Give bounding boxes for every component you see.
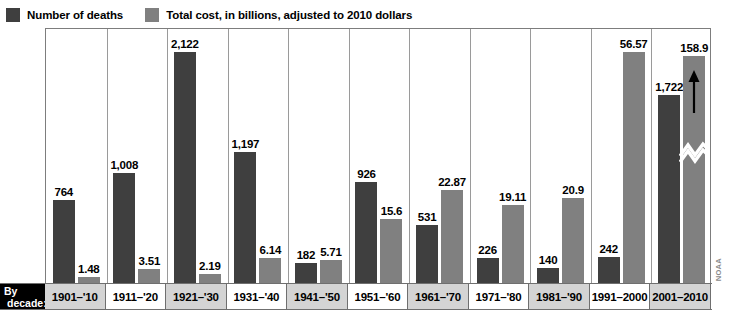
decade-column: 1825.71 xyxy=(288,29,349,283)
bar-deaths: 1,197 xyxy=(234,152,256,283)
axis-decade-cell: 1991–2000 xyxy=(590,284,651,309)
bar-deaths: 2,122 xyxy=(174,52,196,283)
axis-title-line2: decade: xyxy=(4,298,42,310)
legend-label-deaths: Number of deaths xyxy=(27,9,123,21)
axis-title-line1: By xyxy=(4,286,42,298)
bar-value-label-deaths: 2,122 xyxy=(171,38,199,50)
bar-value-label-deaths: 764 xyxy=(54,186,73,198)
bar-deaths: 182 xyxy=(295,263,317,283)
axis-decade-cell: 1971–'80 xyxy=(469,284,530,309)
axis-title: By decade: xyxy=(0,284,45,309)
axis-decade-cell: 1941–'50 xyxy=(287,284,348,309)
bar-deaths: 140 xyxy=(537,268,559,283)
legend-label-cost: Total cost, in billions, adjusted to 201… xyxy=(166,9,412,21)
source-credit: NOAA xyxy=(714,258,723,281)
bar-value-label-cost: 2.19 xyxy=(199,260,221,272)
plot-area: 7641.481,0083.512,1222.191,1976.141825.7… xyxy=(45,28,711,283)
decade-column: 7641.48 xyxy=(46,29,107,283)
bar-value-label-deaths: 1,008 xyxy=(110,159,138,171)
chart-legend: Number of deaths Total cost, in billions… xyxy=(6,6,412,24)
bar-cost: 2.19 xyxy=(199,274,221,283)
axis-decade-cell: 1931–'40 xyxy=(227,284,288,309)
bar-chart-hurricane-deaths-and-cost: Number of deaths Total cost, in billions… xyxy=(0,0,729,316)
bar-value-label-cost: 22.87 xyxy=(438,176,466,188)
bar-deaths: 764 xyxy=(53,200,75,283)
bar-value-label-deaths: 242 xyxy=(599,243,618,255)
up-arrow-icon xyxy=(686,70,702,118)
legend-entry-deaths: Number of deaths xyxy=(6,8,123,22)
bar-cost: 6.14 xyxy=(259,258,281,283)
cost-swatch-icon xyxy=(145,8,159,22)
bar-value-label-deaths: 1,722 xyxy=(655,81,683,93)
bar-cost: 56.57 xyxy=(623,52,645,283)
bar-cost: 5.71 xyxy=(320,260,342,283)
bar-value-label-deaths: 531 xyxy=(418,211,437,223)
bar-deaths: 226 xyxy=(477,258,499,283)
bar-value-label-cost: 1.48 xyxy=(78,263,100,275)
bar-value-label-cost: 158.9 xyxy=(680,42,708,54)
bar-value-label-deaths: 226 xyxy=(478,244,497,256)
bar-deaths: 1,722 xyxy=(658,95,680,283)
axis-decade-cell: 1981–'90 xyxy=(529,284,590,309)
bar-value-label-cost: 19.11 xyxy=(499,191,526,203)
decade-column: 14020.9 xyxy=(530,29,591,283)
legend-entry-cost: Total cost, in billions, adjusted to 201… xyxy=(145,8,412,22)
bar-deaths: 1,008 xyxy=(113,173,135,283)
deaths-swatch-icon xyxy=(6,8,20,22)
decade-column: 1,0083.51 xyxy=(107,29,168,283)
decade-column: 1,1976.14 xyxy=(228,29,289,283)
bar-value-label-cost: 15.6 xyxy=(381,205,403,217)
bar-value-label-cost: 3.51 xyxy=(139,255,161,267)
bar-value-label-cost: 6.14 xyxy=(260,244,282,256)
bar-value-label-cost: 56.57 xyxy=(620,38,648,50)
decade-column: 1,722158.9 xyxy=(651,29,712,283)
decade-column: 24256.57 xyxy=(591,29,652,283)
decade-column: 53122.87 xyxy=(409,29,470,283)
bar-value-label-cost: 20.9 xyxy=(562,184,584,196)
bar-cost: 22.87 xyxy=(441,190,463,283)
bar-cost: 3.51 xyxy=(138,269,160,283)
bar-cost: 20.9 xyxy=(562,198,584,283)
bar-value-label-deaths: 182 xyxy=(297,249,316,261)
bar-cost: 19.11 xyxy=(502,205,524,283)
axis-break-icon xyxy=(679,136,709,170)
decade-column: 92615.6 xyxy=(349,29,410,283)
axis-decade-cell: 1911–'20 xyxy=(106,284,167,309)
axis-decade-cell: 1951–'60 xyxy=(348,284,409,309)
decade-axis-row: By decade: 1901–'101911–'201921–'301931–… xyxy=(0,283,712,310)
bar-value-label-deaths: 926 xyxy=(357,168,376,180)
axis-decade-cell: 1961–'70 xyxy=(408,284,469,309)
decade-column: 2,1222.19 xyxy=(167,29,228,283)
decade-column: 22619.11 xyxy=(470,29,531,283)
axis-decade-cell: 2001–2010 xyxy=(650,284,711,309)
bar-cost-truncated: 158.9 xyxy=(683,56,705,283)
bar-cost: 15.6 xyxy=(380,219,402,283)
axis-decade-cell: 1921–'30 xyxy=(166,284,227,309)
bar-value-label-cost: 5.71 xyxy=(320,246,342,258)
bar-value-label-deaths: 140 xyxy=(539,254,558,266)
bar-deaths: 531 xyxy=(416,225,438,283)
axis-decade-cell: 1901–'10 xyxy=(45,284,106,309)
bar-value-label-deaths: 1,197 xyxy=(232,138,260,150)
bar-deaths: 242 xyxy=(598,257,620,283)
bar-deaths: 926 xyxy=(355,182,377,283)
